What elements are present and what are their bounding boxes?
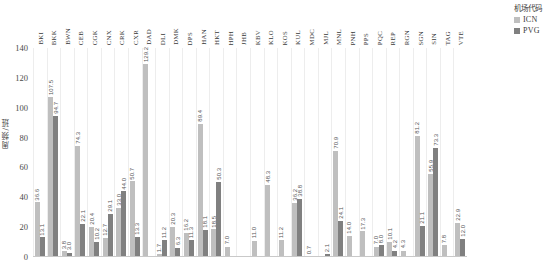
bar-pvg[interactable]: 11.2 [162, 240, 167, 257]
x-tick-text: VTE [457, 31, 464, 45]
bar-group[interactable]: 7.08.0 [372, 48, 386, 257]
bar-icn[interactable]: 17.3 [360, 231, 365, 257]
bar-icn[interactable]: 14.0 [347, 236, 352, 257]
bar-group[interactable]: 55.973.3 [426, 48, 440, 257]
x-tick-text: BKI [36, 32, 43, 45]
x-tick-text: SGN [416, 31, 423, 46]
bar-group[interactable]: 36.613.1 [33, 48, 47, 257]
legend-swatch-icn [514, 17, 520, 23]
bar-pvg[interactable]: 12.0 [460, 239, 465, 257]
gridline [33, 257, 467, 258]
x-tick-label: HPH [223, 0, 237, 46]
legend-title: 机场代码 [514, 4, 542, 13]
group-separator [223, 48, 224, 257]
bar-pvg[interactable]: 13.3 [135, 237, 140, 257]
x-tick-label: RGN [399, 0, 413, 46]
group-separator [440, 48, 441, 257]
bar-pvg[interactable]: 18.1 [203, 230, 208, 257]
bar-value-label: 12.0 [460, 225, 466, 237]
x-tick-label: MNL [331, 0, 345, 46]
bar-group[interactable]: 48.3 [264, 48, 278, 257]
bar-group[interactable]: 33.044.0 [114, 48, 128, 257]
x-tick-label: VTE [453, 0, 467, 46]
x-tick-text: RGN [402, 30, 409, 45]
legend-label-icn: ICN [523, 15, 537, 25]
bar-group[interactable]: 10.14.2 [386, 48, 400, 257]
bar-value-label: 18.1 [202, 216, 208, 228]
bar-value-label: 7.8 [441, 235, 447, 243]
bar-value-label: 107.5 [48, 80, 54, 95]
bar-group[interactable]: 7.8 [440, 48, 454, 257]
bar-icn[interactable]: 129.2 [143, 64, 148, 257]
x-tick-label: BWN [60, 0, 74, 46]
group-separator [155, 48, 156, 257]
bar-group[interactable]: 4.3 [399, 48, 413, 257]
bar-pvg[interactable]: 29.1 [108, 214, 113, 257]
x-tick-text: DLI [158, 33, 165, 45]
bar-group[interactable]: 89.418.1 [196, 48, 210, 257]
legend-item-pvg[interactable]: PVG [514, 26, 542, 36]
x-tick-label: KUL [291, 0, 305, 46]
group-separator [277, 48, 278, 257]
bar-group[interactable]: 107.594.7 [47, 48, 61, 257]
y-tick-label: 0 [24, 252, 28, 262]
bar-pvg[interactable]: 10.2 [94, 242, 99, 257]
bar-group[interactable]: 50.713.3 [128, 48, 142, 257]
x-tick-label: DLI [155, 0, 169, 46]
bar-group[interactable]: 20.36.3 [169, 48, 183, 257]
bar-group[interactable]: 2.1 [318, 48, 332, 257]
x-tick-label: KOS [277, 0, 291, 46]
bar-group[interactable]: 81.221.1 [413, 48, 427, 257]
legend-item-icn[interactable]: ICN [514, 15, 542, 25]
bar-group[interactable]: 7.0 [223, 48, 237, 257]
legend-label-pvg: PVG [523, 26, 540, 36]
bar-pvg[interactable]: 38.8 [297, 199, 302, 257]
bar-pvg[interactable]: 50.3 [216, 182, 221, 257]
bar-group[interactable]: 3.83.0 [60, 48, 74, 257]
bar-icn[interactable]: 11.0 [252, 241, 257, 257]
x-tick-label: CEB [74, 0, 88, 46]
bar-group[interactable] [236, 48, 250, 257]
bar-value-label: 11.2 [278, 227, 284, 238]
bar-group[interactable]: 22.912.0 [453, 48, 467, 257]
x-tick-text: KLO [267, 30, 274, 45]
bar-pvg[interactable]: 73.3 [433, 148, 438, 257]
y-tick-label: 120 [15, 73, 28, 83]
x-tick-text: MJL [321, 31, 328, 45]
bar-group[interactable]: 11.0 [250, 48, 264, 257]
bar-pvg[interactable]: 94.7 [53, 116, 58, 257]
bar-value-label: 22.1 [80, 210, 86, 222]
x-tick-label: TAG [440, 0, 454, 46]
bar-value-label: 11.3 [188, 227, 194, 238]
bar-pvg[interactable]: 11.3 [189, 240, 194, 257]
x-tick-label: MJL [318, 0, 332, 46]
bar-pvg[interactable]: 24.1 [338, 221, 343, 257]
bar-group[interactable]: 20.410.2 [87, 48, 101, 257]
bar-icn[interactable]: 48.3 [265, 185, 270, 257]
bar-group[interactable]: 18.550.3 [209, 48, 223, 257]
bar-group[interactable]: 17.3 [359, 48, 373, 257]
bar-group[interactable]: 36.238.8 [291, 48, 305, 257]
bar-group[interactable]: 1.711.2 [155, 48, 169, 257]
bar-pvg[interactable]: 21.1 [420, 226, 425, 257]
bar-group[interactable]: 16.211.3 [182, 48, 196, 257]
bar-pvg[interactable]: 13.1 [40, 237, 45, 257]
bar-pvg[interactable]: 44.0 [121, 191, 126, 257]
y-tick-label: 40 [20, 192, 29, 202]
bar-value-label: 38.8 [297, 185, 303, 197]
bar-group[interactable]: 0.7 [304, 48, 318, 257]
bar-value-label: 94.7 [53, 102, 59, 114]
bar-group[interactable]: 74.322.1 [74, 48, 88, 257]
bar-pvg[interactable]: 22.1 [80, 224, 85, 257]
bar-group[interactable]: 12.729.1 [101, 48, 115, 257]
group-separator [399, 48, 400, 257]
bar-icn[interactable]: 11.2 [279, 240, 284, 257]
bar-value-label: 74.3 [75, 132, 81, 144]
bar-value-label: 50.3 [216, 168, 222, 180]
x-tick-label: HKT [209, 0, 223, 46]
bar-group[interactable]: 129.2 [142, 48, 156, 257]
bar-group[interactable]: 70.924.1 [331, 48, 345, 257]
bar-group[interactable]: 14.0 [345, 48, 359, 257]
bar-group[interactable]: 11.2 [277, 48, 291, 257]
bar-value-label: 10.2 [94, 228, 100, 240]
